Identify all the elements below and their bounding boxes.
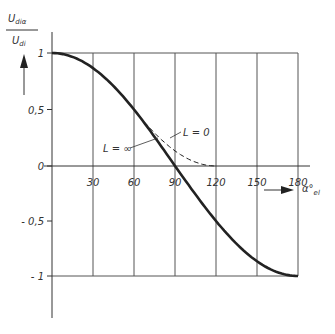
y-arrow-head-icon xyxy=(20,54,28,68)
xlabel: α°el xyxy=(302,183,320,197)
x-tick-label: 60 xyxy=(128,177,141,188)
ylabel-denominator: Udi xyxy=(12,35,26,48)
labels: Udiα Udi α°el L = ∞ L = 0 xyxy=(6,13,320,197)
chart: 30609012015018010,50- 0,5- 1 Udiα Udi α°… xyxy=(0,0,335,334)
x-tick-label: 30 xyxy=(87,177,100,188)
y-tick-label: 0 xyxy=(38,161,44,172)
y-tick-label: 0,5 xyxy=(28,105,44,116)
y-tick-label: 1 xyxy=(38,48,44,59)
ylabel-numerator: Udiα xyxy=(8,13,27,26)
x-tick-label: 90 xyxy=(169,177,182,188)
axes: 30609012015018010,50- 0,5- 1 xyxy=(21,32,310,318)
x-tick-label: 120 xyxy=(206,177,225,188)
annotation-l-zero: L = 0 xyxy=(183,127,210,138)
x-tick-label: 150 xyxy=(247,177,266,188)
y-tick-label: - 0,5 xyxy=(21,216,44,227)
annotation-l-inf: L = ∞ xyxy=(103,143,132,154)
y-tick-label: - 1 xyxy=(31,271,44,282)
